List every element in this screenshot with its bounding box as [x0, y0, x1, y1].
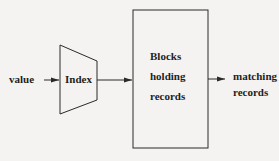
index-label: Index: [65, 72, 92, 86]
output-label-line: matching: [233, 68, 277, 84]
blocks-label-line: holding: [150, 66, 185, 86]
output-label-line: records: [233, 84, 277, 100]
blocks-label-line: Blocks: [150, 46, 185, 66]
blocks-label: Blocks holding records: [150, 46, 185, 106]
blocks-label-line: records: [150, 86, 185, 106]
input-value-label: value: [9, 72, 34, 86]
output-label: matching records: [233, 68, 277, 100]
